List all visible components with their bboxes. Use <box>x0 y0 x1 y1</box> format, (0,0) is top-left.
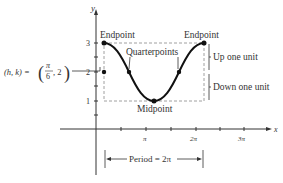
quarterpoints-leader-1 <box>129 57 130 69</box>
center-paren-open: ( <box>38 63 44 84</box>
quarterpoint-1 <box>127 70 131 74</box>
period-arrowhead-left <box>106 157 111 161</box>
x-tick-label-2pi: 2π <box>190 135 198 143</box>
endpoint-right <box>202 41 207 46</box>
x-tick-label-3pi: 3π <box>237 135 246 143</box>
y-tick-label-3: 3 <box>86 39 90 48</box>
period-label: Period = 2π <box>129 154 172 164</box>
x-axis-arrow <box>266 127 272 131</box>
midpoint-label: Midpoint <box>137 104 173 114</box>
up-label: Up one unit <box>213 52 258 62</box>
x-axis-label: x <box>273 125 278 134</box>
center-num: π <box>46 61 51 70</box>
y-tick-label-2: 2 <box>86 68 90 77</box>
center-paren-close: ) <box>64 63 70 84</box>
endpoint-left <box>102 41 107 46</box>
x-tick-label-pi: π <box>143 135 147 143</box>
center-k: , 2 <box>53 67 62 77</box>
endpoint-left-label: Endpoint <box>100 30 135 40</box>
center-label: (h, k) = <box>4 67 30 77</box>
endpoint-right-label: Endpoint <box>184 30 219 40</box>
center-den: 6 <box>46 72 50 81</box>
quarterpoint-2 <box>177 70 181 74</box>
y-tick-label-1: 1 <box>86 97 90 106</box>
down-brace <box>209 74 211 100</box>
up-brace <box>209 44 211 70</box>
down-label: Down one unit <box>213 82 270 92</box>
y-axis-label: y <box>90 3 95 13</box>
center-point <box>102 70 106 74</box>
midpoint <box>152 99 157 104</box>
graph: y x 3 2 1 π 2π 3π Endpoint Endpoint Quar… <box>0 0 283 183</box>
period-arrowhead-right <box>197 157 202 161</box>
quarterpoints-label: Quarterpoints <box>126 47 179 57</box>
